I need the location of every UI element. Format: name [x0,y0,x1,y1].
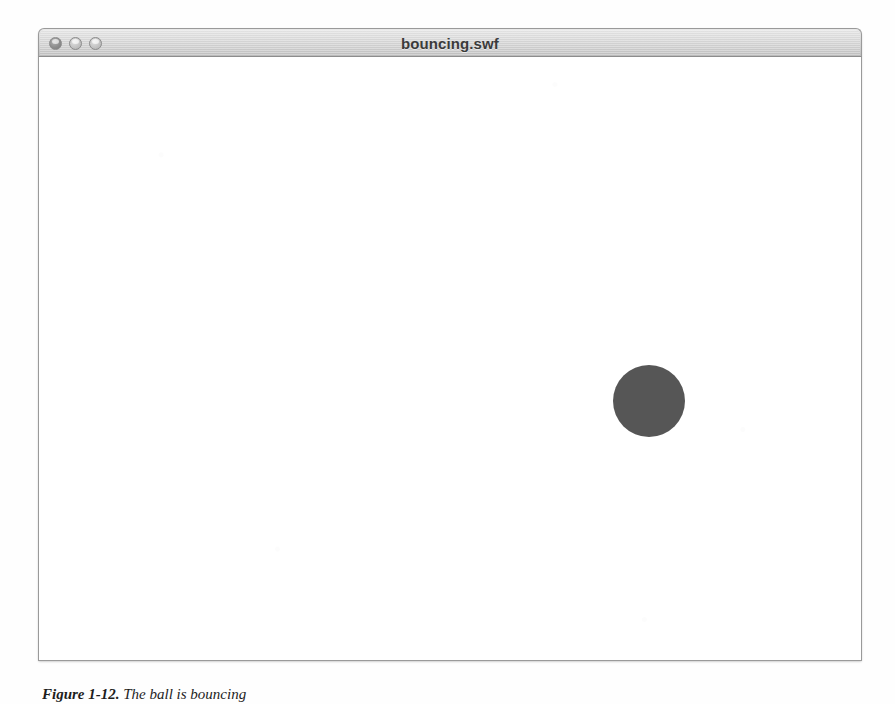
minimize-button-icon[interactable] [69,37,82,50]
window-content-area [38,57,862,661]
window-title: bouncing.swf [39,29,861,58]
scanned-page: bouncing.swf Figure 1-12. The ball is bo… [0,0,895,704]
bouncing-ball [613,365,685,437]
figure-caption-text: The ball is bouncing [120,686,247,702]
close-button-icon[interactable] [49,37,62,50]
figure-caption-label: Figure 1-12. [42,686,120,702]
figure-caption: Figure 1-12. The ball is bouncing [42,686,642,703]
application-window[interactable]: bouncing.swf [38,28,862,661]
flash-stage[interactable] [42,60,858,657]
window-titlebar[interactable]: bouncing.swf [38,28,862,57]
window-controls [49,29,102,58]
zoom-button-icon[interactable] [89,37,102,50]
